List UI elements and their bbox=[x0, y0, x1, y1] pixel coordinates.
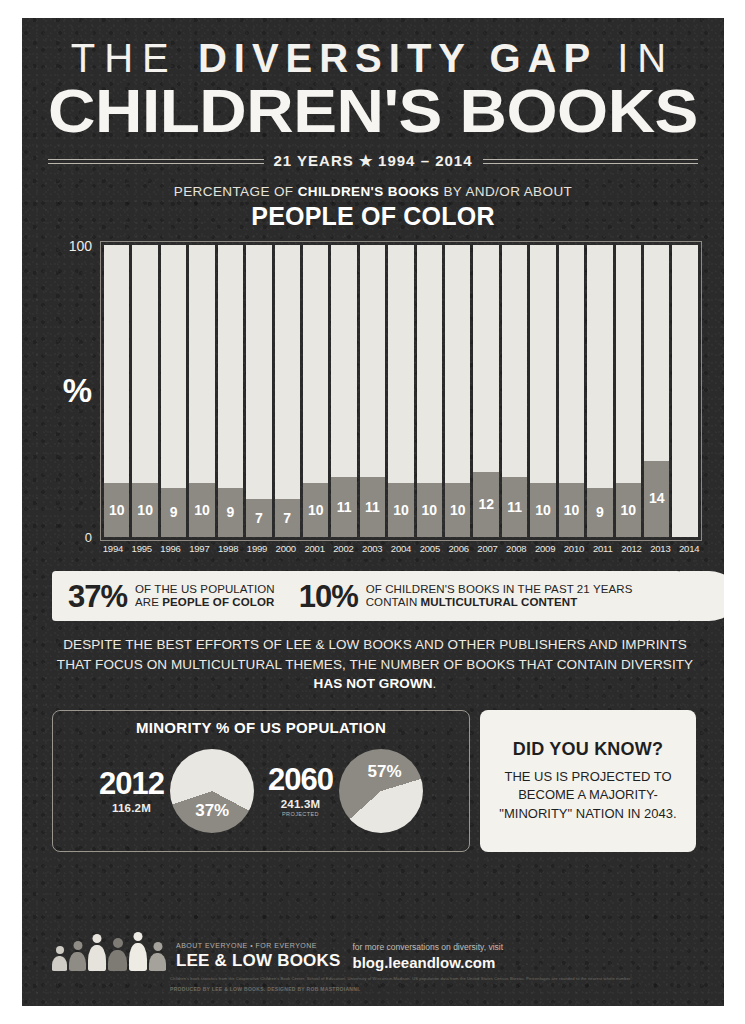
chart-bar: 10 bbox=[104, 245, 129, 537]
x-axis-label: 2010 bbox=[561, 543, 587, 554]
source-fineprint: Children's book statistics from the Coop… bbox=[170, 976, 700, 983]
chart-bar: 10 bbox=[388, 245, 413, 537]
silhouette-body bbox=[69, 952, 86, 971]
x-axis-label: 1997 bbox=[186, 543, 212, 554]
x-axis-label: 2009 bbox=[532, 543, 558, 554]
brand-block: ABOUT EVERYONE • FOR EVERYONE LEE & LOW … bbox=[176, 942, 503, 971]
subtitle-small-bold: CHILDREN'S BOOKS bbox=[298, 184, 440, 199]
chart-bar-value: 10 bbox=[450, 503, 466, 518]
title-prefix: THE bbox=[71, 36, 198, 80]
y-axis: 100 % 0 bbox=[40, 241, 96, 541]
commentary-paragraph: DESPITE THE BEST EFFORTS OF LEE & LOW BO… bbox=[52, 635, 698, 694]
did-you-know-panel: DID YOU KNOW? THE US IS PROJECTED TO BEC… bbox=[480, 710, 696, 852]
chart-bar-fill: 12 bbox=[473, 472, 498, 538]
chart-bar-value: 11 bbox=[337, 500, 352, 515]
chart-bar-fill: 10 bbox=[104, 483, 129, 538]
y-axis-min-label: 0 bbox=[85, 530, 92, 545]
silhouette-body bbox=[88, 945, 106, 971]
y-axis-unit-label: % bbox=[63, 372, 92, 410]
chart-bar-fill: 10 bbox=[616, 483, 641, 538]
chart-bar: 12 bbox=[473, 245, 498, 537]
subtitle-small-pre: PERCENTAGE OF bbox=[174, 184, 298, 199]
silhouette-body bbox=[108, 950, 127, 971]
silhouette-head bbox=[153, 942, 162, 951]
infographic-poster: THE DIVERSITY GAP IN CHILDREN'S BOOKS 21… bbox=[22, 18, 724, 1006]
person-silhouette-icon bbox=[88, 934, 106, 971]
chart-bar: 11 bbox=[502, 245, 527, 537]
silhouette-head bbox=[73, 941, 82, 950]
chart-bar-fill: 10 bbox=[388, 483, 413, 538]
pie-year: 2012 bbox=[99, 768, 164, 799]
chart-bar-fill: 7 bbox=[246, 499, 271, 537]
chart-bar-value: 10 bbox=[308, 503, 324, 518]
chart-bar bbox=[672, 245, 697, 537]
lower-panels: MINORITY % OF US POPULATION 2012116.2M37… bbox=[52, 710, 696, 852]
years-rule: 21 YEARS ★ 1994 – 2014 bbox=[22, 152, 724, 170]
chart-bar: 10 bbox=[132, 245, 157, 537]
x-axis-label: 1998 bbox=[215, 543, 241, 554]
people-silhouettes-icon bbox=[52, 929, 166, 971]
stat-books-line2-bold: MULTICULTURAL CONTENT bbox=[421, 596, 578, 608]
x-axis-label: 1996 bbox=[158, 543, 184, 554]
chart-bar: 7 bbox=[275, 245, 300, 537]
bar-chart: 100 % 0 10109109771011111010101211101091… bbox=[22, 241, 724, 561]
person-silhouette-icon bbox=[108, 938, 127, 971]
stat-population: 37% OF THE US POPULATION ARE PEOPLE OF C… bbox=[68, 581, 275, 612]
pie-percent-label: 37% bbox=[195, 801, 229, 821]
title-emphasis: DIVERSITY GAP bbox=[198, 36, 597, 80]
chart-bar-value: 9 bbox=[227, 505, 235, 520]
stat-population-line1: OF THE US POPULATION bbox=[135, 583, 275, 597]
chart-bar-value: 10 bbox=[137, 503, 153, 518]
chart-bar-fill: 10 bbox=[530, 483, 555, 538]
x-axis: 1994199519961997199819992000200120022003… bbox=[100, 543, 702, 554]
blog-lockup[interactable]: for more conversations on diversity, vis… bbox=[353, 942, 504, 971]
chart-bar: 11 bbox=[331, 245, 356, 537]
years-label: 21 YEARS ★ 1994 – 2014 bbox=[274, 152, 473, 170]
blog-tagline: for more conversations on diversity, vis… bbox=[353, 942, 504, 952]
poster-footer: ABOUT EVERYONE • FOR EVERYONE LEE & LOW … bbox=[52, 929, 700, 992]
pie-population: 116.2M bbox=[99, 802, 164, 814]
pie-chart: 57% bbox=[339, 749, 423, 833]
blog-url-link[interactable]: blog.leeandlow.com bbox=[353, 954, 504, 971]
silhouette-head bbox=[56, 946, 64, 954]
chart-bar-fill: 10 bbox=[303, 483, 328, 538]
subtitle-small: PERCENTAGE OF CHILDREN'S BOOKS BY AND/OR… bbox=[22, 184, 724, 199]
pie-percent-label: 57% bbox=[368, 762, 402, 782]
footer-main-row: ABOUT EVERYONE • FOR EVERYONE LEE & LOW … bbox=[52, 929, 700, 971]
chart-bar-value: 12 bbox=[478, 497, 494, 512]
silhouette-head bbox=[113, 938, 123, 948]
pie-labels: 2012116.2M bbox=[99, 768, 164, 814]
stat-books-text: OF CHILDREN'S BOOKS IN THE PAST 21 YEARS… bbox=[366, 583, 633, 610]
person-silhouette-icon bbox=[129, 932, 147, 971]
x-axis-label: 2005 bbox=[417, 543, 443, 554]
x-axis-label: 2012 bbox=[619, 543, 645, 554]
x-axis-label: 2008 bbox=[503, 543, 529, 554]
stat-books-line1: OF CHILDREN'S BOOKS IN THE PAST 21 YEARS bbox=[366, 583, 633, 597]
chart-bar-fill: 7 bbox=[275, 499, 300, 537]
stat-books: 10% OF CHILDREN'S BOOKS IN THE PAST 21 Y… bbox=[299, 581, 633, 612]
chart-bar-value: 14 bbox=[649, 491, 665, 506]
chart-bar: 9 bbox=[218, 245, 243, 537]
chart-bar-fill: 10 bbox=[445, 483, 470, 538]
title-line-1: THE DIVERSITY GAP IN bbox=[22, 38, 724, 79]
x-axis-label: 2007 bbox=[475, 543, 501, 554]
title-suffix: IN bbox=[597, 36, 675, 80]
pie-chart: 37% bbox=[170, 749, 254, 833]
chart-bar-fill: 9 bbox=[218, 488, 243, 537]
commentary-bold: HAS NOT GROWN bbox=[314, 676, 433, 691]
stat-population-line2-bold: PEOPLE OF COLOR bbox=[162, 596, 274, 608]
chart-bar-value: 9 bbox=[596, 505, 604, 520]
x-axis-label: 1995 bbox=[129, 543, 155, 554]
silhouette-body bbox=[149, 953, 166, 971]
x-axis-label: 2004 bbox=[388, 543, 414, 554]
subtitle-big: PEOPLE OF COLOR bbox=[22, 202, 724, 231]
chart-bar-value: 9 bbox=[170, 505, 178, 520]
chart-bar-value: 10 bbox=[564, 503, 580, 518]
chart-bar-fill: 10 bbox=[417, 483, 442, 538]
x-axis-label: 1994 bbox=[100, 543, 126, 554]
pie-unit: 2060241.3MPROJECTED57% bbox=[268, 749, 423, 833]
silhouette-body bbox=[129, 943, 147, 971]
chart-bar-fill: 10 bbox=[189, 483, 214, 538]
chart-bar-value: 10 bbox=[535, 503, 551, 518]
minority-population-panel: MINORITY % OF US POPULATION 2012116.2M37… bbox=[52, 710, 470, 852]
